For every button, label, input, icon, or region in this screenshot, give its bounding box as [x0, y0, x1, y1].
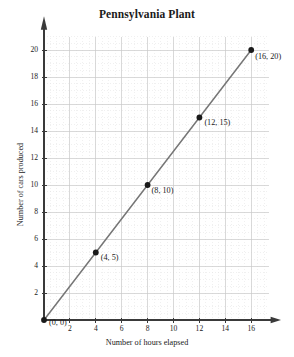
y-tick-label: 16	[18, 99, 38, 108]
y-tick-label: 10	[18, 180, 38, 189]
x-tick-label: 8	[138, 324, 158, 333]
data-point-label: (4, 5)	[101, 253, 119, 262]
x-axis-arrowhead	[271, 317, 281, 323]
data-point-label: (16, 20)	[255, 52, 281, 61]
x-tick-label: 16	[241, 324, 261, 333]
y-tick-label: 14	[18, 126, 38, 135]
y-tick-label: 2	[18, 288, 38, 297]
x-tick-label: 14	[215, 324, 235, 333]
x-tick-label: 12	[189, 324, 209, 333]
y-tick-label: 4	[18, 261, 38, 270]
x-tick-label: 4	[86, 324, 106, 333]
plot-area	[0, 0, 294, 357]
y-tick-label: 12	[18, 153, 38, 162]
data-point-label: (8, 10)	[152, 186, 174, 195]
chart-container: Pennsylvania Plant Number of cars produc…	[0, 0, 294, 357]
data-point-marker	[93, 250, 99, 256]
data-point-marker	[197, 115, 203, 121]
y-tick-label: 18	[18, 72, 38, 81]
y-tick-label: 6	[18, 234, 38, 243]
y-tick-label: 20	[18, 45, 38, 54]
x-axis-title: Number of hours elapsed	[0, 338, 294, 347]
x-tick-label: 10	[164, 324, 184, 333]
x-tick-label: 6	[112, 324, 132, 333]
data-point-marker	[248, 47, 254, 53]
y-axis-arrowhead	[41, 16, 47, 30]
data-point-marker	[145, 182, 151, 188]
y-tick-label: 8	[18, 207, 38, 216]
data-point-marker	[41, 317, 47, 323]
data-point-label: (12, 15)	[204, 118, 230, 127]
minor-gridlines	[44, 37, 269, 321]
data-point-label: (0, 0)	[49, 318, 67, 327]
